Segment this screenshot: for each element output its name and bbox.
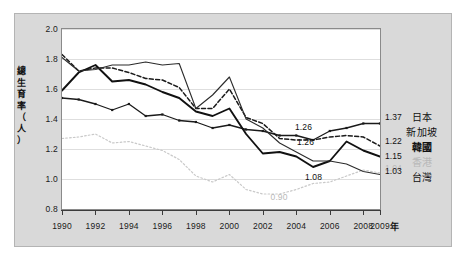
series-marker xyxy=(161,113,163,115)
x-axis-tick xyxy=(196,210,197,215)
series-line-韓國 xyxy=(62,65,380,167)
x-axis-tick-label: 2004 xyxy=(286,221,306,231)
x-axis-tick xyxy=(129,210,130,215)
series-marker xyxy=(145,115,147,117)
y-axis-tick-labels: 2.01.81.61.41.21.00.8 xyxy=(24,22,58,216)
legend-item-韓國[interactable]: 韓國 xyxy=(396,140,448,155)
series-marker xyxy=(279,134,281,136)
x-axis-title: 年 xyxy=(390,220,399,233)
y-axis-tick-label: 2.0 xyxy=(46,24,58,34)
x-axis-tick-label: 1990 xyxy=(52,221,72,231)
series-marker xyxy=(345,127,347,129)
y-axis-tick-label: 0.8 xyxy=(46,204,58,214)
series-marker xyxy=(228,124,230,126)
plot-area xyxy=(61,28,381,210)
x-axis-tick xyxy=(263,210,264,215)
x-axis-tick xyxy=(162,210,163,215)
x-axis-tick-label: 2000 xyxy=(220,221,240,231)
y-axis-tick-label: 1.8 xyxy=(46,54,58,64)
x-axis-tick-label: 2002 xyxy=(253,221,273,231)
series-marker xyxy=(262,130,264,132)
x-axis-tick xyxy=(296,210,297,215)
value-annotation: 1.08 xyxy=(305,172,322,182)
x-axis-tick xyxy=(62,210,63,215)
series-marker xyxy=(362,122,364,124)
series-marker xyxy=(195,121,197,123)
series-marker xyxy=(245,128,247,130)
series-marker xyxy=(94,103,96,105)
y-axis-tick-label: 1.4 xyxy=(46,114,58,124)
value-annotation: 1.26 xyxy=(295,122,312,132)
x-axis-tick-label: 2006 xyxy=(320,221,340,231)
legend-item-台灣[interactable]: 台灣 xyxy=(396,170,448,185)
value-annotation: 1.26 xyxy=(297,137,314,147)
x-axis-tick-label: 1994 xyxy=(119,221,139,231)
x-axis-line xyxy=(61,210,381,211)
series-marker xyxy=(379,122,380,124)
series-lines xyxy=(62,29,380,209)
legend-item-香港[interactable]: 香港 xyxy=(396,155,448,170)
legend-item-日本[interactable]: 日本 xyxy=(396,110,448,125)
x-axis-tick xyxy=(330,210,331,215)
series-marker xyxy=(78,98,80,100)
series-line-新加坡 xyxy=(62,55,380,147)
value-annotation: 0.90 xyxy=(271,192,288,202)
x-axis-tick-label: 1998 xyxy=(186,221,206,231)
series-marker xyxy=(111,109,113,111)
chart-page: 總生育率（人） 2.01.81.61.41.21.00.8 1990199219… xyxy=(0,0,466,260)
series-line-香港 xyxy=(62,134,380,194)
x-axis-tick xyxy=(229,210,230,215)
legend-item-新加坡[interactable]: 新加坡 xyxy=(396,125,448,140)
x-axis-tick xyxy=(363,210,364,215)
series-line-日本 xyxy=(62,98,380,140)
y-axis-tick-label: 1.0 xyxy=(46,174,58,184)
x-axis-tick-label: 1996 xyxy=(153,221,173,231)
legend: 日本新加坡韓國香港台灣 xyxy=(396,110,448,185)
x-axis-tick-label: 1992 xyxy=(86,221,106,231)
series-marker xyxy=(329,130,331,132)
y-axis-tick-label: 1.6 xyxy=(46,84,58,94)
x-axis-tick xyxy=(380,210,381,215)
x-axis-tick xyxy=(95,210,96,215)
y-axis-tick-label: 1.2 xyxy=(46,144,58,154)
x-axis-tick-label: 2009 xyxy=(370,221,390,231)
series-marker xyxy=(212,127,214,129)
series-marker xyxy=(62,97,63,99)
series-marker xyxy=(178,119,180,121)
series-marker xyxy=(128,103,130,105)
